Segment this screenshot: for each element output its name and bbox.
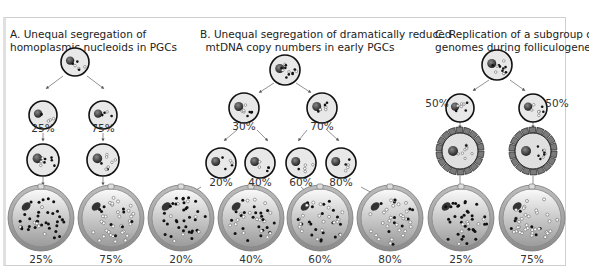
label-a-mid-2: 75% [83,122,123,134]
label-b-lower-3: 60% [281,176,321,188]
label-b-mid-1: 30% [224,120,264,132]
label-a-mid-1: 25% [23,122,63,134]
label-c-bottom-1: 25% [441,253,481,265]
label-b-bottom-3: 60% [300,253,340,265]
label-b-bottom-4: 80% [370,253,410,265]
label-a-bottom-2: 75% [91,253,131,265]
label-b-lower-2: 40% [240,176,280,188]
label-b-lower-1: 20% [201,176,241,188]
label-b-bottom-1: 20% [161,253,201,265]
label-a-bottom-1: 25% [21,253,61,265]
label-b-lower-4: 80% [321,176,361,188]
label-c-bottom-2: 75% [512,253,552,265]
cells [8,48,565,251]
diagram-graphics [0,0,589,276]
label-b-mid-2: 70% [302,120,342,132]
label-c-mid-1: 50% [417,97,457,109]
label-b-bottom-2: 40% [231,253,271,265]
label-c-mid-2: 50% [537,97,577,109]
